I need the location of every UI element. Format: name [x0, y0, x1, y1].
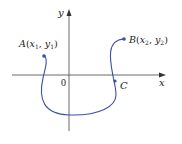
y-axis-arrow-icon	[67, 9, 72, 16]
origin-label: 0	[61, 77, 66, 88]
point-c-dot	[113, 79, 116, 82]
y-axis-label: y	[57, 7, 64, 18]
point-b-dot	[122, 37, 126, 41]
curve-diagram: y x 0 A(x1, y1) B(x2, y2) C	[0, 0, 182, 144]
point-a-label: A(x1, y1)	[18, 38, 58, 50]
point-c-label: C	[120, 80, 128, 91]
x-axis-label: x	[159, 77, 165, 88]
point-a-dot	[42, 54, 46, 58]
curve-path	[41, 39, 124, 115]
point-b-label: B(x2, y2)	[128, 34, 168, 46]
